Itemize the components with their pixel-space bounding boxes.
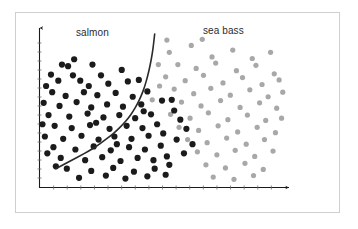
class-label-salmon: salmon xyxy=(76,27,109,38)
axes-group xyxy=(38,28,290,190)
data-points-salmon xyxy=(39,56,195,182)
class-label-sea-bass: sea bass xyxy=(203,25,244,36)
data-points-sea-bass xyxy=(150,37,286,182)
figure-root: salmon sea bass xyxy=(0,0,358,229)
decision-boundary xyxy=(56,34,155,169)
scatter-plot-canvas xyxy=(0,0,358,229)
